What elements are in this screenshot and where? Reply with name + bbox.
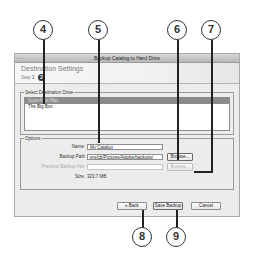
step-label: Step:: [21, 75, 32, 80]
backup-dialog-window: ◦ ◦ Backup Catalog to Hard Drive Destina…: [14, 53, 240, 217]
wizard-header: Destination Settings Step: 1 2: [15, 63, 239, 84]
previous-browse-button[interactable]: Browse...: [167, 163, 193, 171]
page-title: Destination Settings: [21, 65, 83, 72]
callout-5-line: [98, 40, 100, 143]
callout-9-line: [176, 210, 178, 228]
callout-6: 6: [167, 20, 187, 40]
size-label: Size:: [23, 173, 85, 180]
name-input[interactable]: My Catalog: [87, 144, 163, 150]
callout-7: 7: [201, 20, 221, 40]
step-1: 1: [32, 75, 35, 80]
callout-6-line: [177, 40, 179, 160]
callout-7-line: [211, 40, 213, 173]
callout-7-hook: [194, 171, 212, 173]
backup-path-input[interactable]: ers/cb/Pictures/Adobe/backups/: [87, 154, 163, 160]
drive-list[interactable]: SuperFast Mac The Big Box: [24, 97, 230, 131]
back-button[interactable]: « Back: [117, 202, 147, 210]
callout-8-line: [142, 210, 144, 228]
save-backup-button[interactable]: Save Backup: [153, 202, 183, 210]
callout-4-line: [43, 40, 45, 104]
callout-4: 4: [33, 20, 53, 40]
title-bar[interactable]: ◦ ◦ Backup Catalog to Hard Drive: [15, 54, 239, 63]
cancel-button[interactable]: Cancel: [191, 202, 221, 210]
previous-backup-input[interactable]: [87, 164, 163, 170]
drive-item-the-big-box[interactable]: The Big Box: [25, 104, 229, 110]
previous-backup-label: Previous Backup File:: [23, 163, 85, 170]
callout-9: 9: [166, 227, 186, 247]
destination-drive-group: Select Destination Drive SuperFast Mac T…: [20, 92, 234, 135]
callout-5: 5: [88, 20, 108, 40]
name-label: Name:: [23, 143, 85, 150]
destination-drive-legend: Select Destination Drive: [24, 90, 74, 95]
size-value: 323.7 MB: [87, 173, 106, 180]
callout-8: 8: [132, 227, 152, 247]
window-title: Backup Catalog to Hard Drive: [15, 54, 239, 62]
browse-button[interactable]: Browse...: [167, 153, 193, 161]
backup-path-label: Backup Path: [23, 153, 85, 160]
options-legend: Options: [24, 136, 42, 141]
options-group: Options Name: My Catalog Backup Path ers…: [20, 138, 234, 190]
